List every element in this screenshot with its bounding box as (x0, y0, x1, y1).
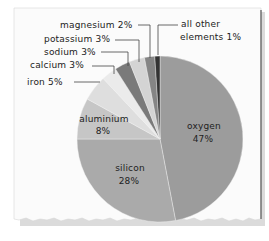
label-oxygen-name: oxygen (187, 121, 221, 131)
pie-chart-figure: magnesium 2% all other elements 1% potas… (0, 0, 269, 241)
label-other-line1: all other (181, 19, 220, 29)
label-iron: iron 5% (27, 77, 63, 87)
label-oxygen-pct: 47% (193, 134, 214, 144)
label-sodium: sodium 3% (44, 47, 96, 57)
pie (77, 56, 243, 222)
label-potassium: potassium 3% (44, 34, 110, 44)
label-magnesium: magnesium 2% (60, 20, 133, 30)
label-aluminium-name: aluminium (79, 114, 128, 124)
label-calcium: calcium 3% (30, 60, 84, 70)
label-silicon-name: silicon (115, 163, 145, 173)
label-silicon-pct: 28% (119, 176, 140, 186)
label-aluminium-pct: 8% (96, 126, 111, 136)
label-other-line2: elements 1% (180, 32, 241, 42)
